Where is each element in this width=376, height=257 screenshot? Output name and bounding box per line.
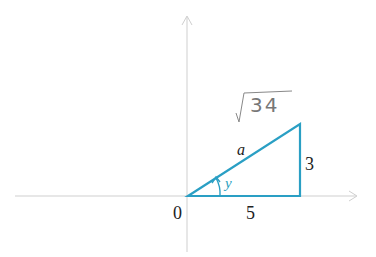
hypotenuse-label: a bbox=[237, 142, 245, 158]
angle-arrow-icon bbox=[212, 177, 220, 183]
opposite-side-label: 3 bbox=[305, 155, 314, 173]
origin-label: 0 bbox=[173, 204, 182, 222]
diagram-canvas bbox=[0, 0, 376, 257]
right-triangle bbox=[188, 124, 300, 196]
angle-label: y bbox=[225, 176, 232, 191]
adjacent-side-label: 5 bbox=[246, 204, 255, 222]
handwritten-hypotenuse-value: 34 bbox=[250, 95, 279, 115]
